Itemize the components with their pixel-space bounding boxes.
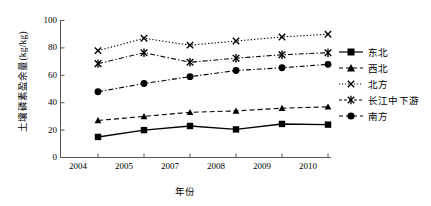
data-point: [233, 126, 239, 132]
legend-swatch-circle-dashdot: [338, 109, 364, 123]
series-line: [98, 107, 328, 121]
series-line: [98, 124, 328, 137]
data-point: [141, 127, 147, 133]
legend-swatch-square-solid: [338, 45, 364, 59]
legend-swatch-triangle-dashed: [338, 61, 364, 75]
legend-label: 长江中下游: [364, 93, 419, 107]
chart-figure: 土壤磷素盈余量(kg/kg) 100 80 60 40 20 0 2004 20…: [0, 0, 431, 206]
data-point: [325, 31, 331, 37]
series-西北: [95, 103, 332, 123]
data-point: [325, 48, 332, 56]
legend-label: 北方: [364, 77, 388, 91]
legend-label: 东北: [364, 45, 388, 59]
y-axis-ticks: [61, 21, 65, 158]
legend-item-dongbei[interactable]: 东北: [338, 44, 431, 60]
legend-label: 南方: [364, 109, 388, 123]
series-line: [98, 64, 328, 91]
legend-item-xibei[interactable]: 西北: [338, 60, 431, 76]
legend-label: 西北: [364, 61, 388, 75]
legend-item-beifang[interactable]: 北方: [338, 76, 431, 92]
legend-swatch-x-dotted: [338, 77, 364, 91]
data-point: [187, 73, 194, 80]
series-东北: [95, 121, 331, 140]
data-point: [187, 123, 193, 129]
series-line: [98, 53, 328, 64]
series-长江中下游: [95, 48, 332, 67]
legend-item-changjiang[interactable]: 长江中下游: [338, 92, 431, 108]
legend: 东北 西北 北方: [338, 44, 431, 124]
legend-item-nanfang[interactable]: 南方: [338, 108, 431, 124]
series-南方: [95, 61, 332, 95]
data-point: [95, 134, 101, 140]
data-point: [325, 61, 332, 68]
series-北方: [95, 31, 331, 54]
legend-swatch-asterisk-dashdot: [338, 93, 364, 107]
data-series-layer: [95, 31, 332, 140]
data-point: [325, 121, 331, 127]
data-point: [279, 64, 286, 71]
data-point: [95, 88, 102, 95]
series-line: [98, 34, 328, 50]
data-point: [279, 121, 285, 127]
data-point: [95, 47, 101, 53]
data-point: [233, 67, 240, 74]
data-point: [141, 80, 148, 87]
x-axis-ticks: [98, 154, 328, 158]
